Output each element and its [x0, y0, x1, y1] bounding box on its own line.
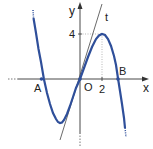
origin-label: O — [84, 81, 93, 93]
y-axis-label: y — [69, 4, 75, 18]
x-tick-label: 2 — [99, 83, 105, 95]
curve-continuation-bottom — [125, 128, 126, 137]
point-a-label: A — [34, 82, 42, 94]
function-graph: y x t 4 2 O A B — [0, 0, 153, 149]
cubic-curve — [34, 18, 126, 128]
tangent-label: t — [105, 11, 108, 23]
point-a — [40, 77, 44, 81]
x-axis-label: x — [143, 81, 149, 95]
point-b-label: B — [119, 65, 126, 77]
y-axis-arrow-icon — [78, 2, 83, 9]
point-o — [78, 77, 82, 81]
tangent-line-t — [60, 4, 102, 140]
point-b — [116, 77, 120, 81]
y-tick-label: 4 — [69, 28, 75, 40]
curve-continuation-top — [33, 10, 34, 18]
